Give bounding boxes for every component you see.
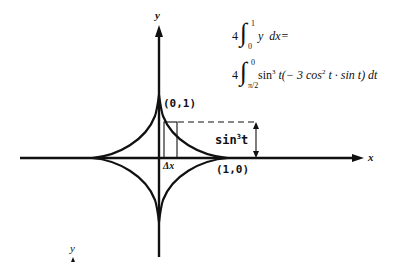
integral-sign-icon: ∫ 1 0 [240, 21, 258, 51]
point-label-0-1: (0,1) [163, 97, 196, 110]
y-axis-arrow-icon [155, 25, 163, 37]
height-arrow-up-icon [253, 122, 259, 129]
eq2-upper-limit: 0 [251, 58, 255, 67]
diagram-canvas [0, 0, 397, 262]
eq1-coefficient: 4 [232, 29, 238, 44]
eq2-coefficient: 4 [232, 68, 238, 83]
strip-rectangle [164, 122, 177, 158]
eq1-lower-limit: 0 [248, 42, 252, 51]
eq2-tail: t · sin t) dt [325, 68, 377, 82]
sin3t-var: t [241, 133, 248, 147]
equation-line-1: 4 ∫ 1 0 y dx= [232, 21, 289, 51]
integral-sign-icon: ∫ 0 π/2 [240, 60, 258, 90]
equation-line-2: 4 ∫ 0 π/2 sin3 t(− 3 cos2 t · sin t) dt [232, 60, 377, 90]
eq2-lower-limit: π/2 [248, 81, 258, 90]
stray-arrow-icon [71, 257, 75, 262]
eq2-mid: t(− 3 cos [276, 68, 322, 82]
eq2-integrand: sin3 t(− 3 cos2 t · sin t) dt [258, 68, 377, 83]
x-axis-arrow-icon [352, 154, 364, 162]
eq1-upper-limit: 1 [251, 19, 255, 28]
delta-x-label: Δx [163, 160, 174, 171]
eq1-integrand: y dx= [258, 29, 289, 44]
stray-y-label: y [70, 242, 75, 254]
point-label-1-0: (1,0) [216, 163, 249, 176]
eq2-sin: sin [258, 68, 272, 82]
y-axis-label: y [155, 9, 160, 21]
x-axis-label: x [368, 151, 374, 163]
astroid-diagram: y x y (0,1) (1,0) Δx sin3t 4 ∫ 1 0 y dx=… [0, 0, 397, 262]
sin3t-label: sin3t [215, 133, 248, 147]
sin3t-base: sin [215, 133, 237, 147]
